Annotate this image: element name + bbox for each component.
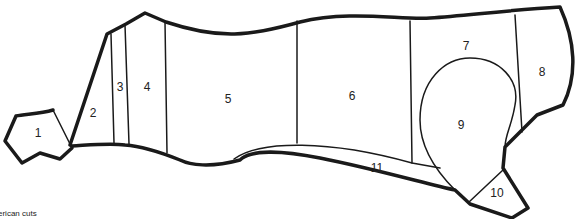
cut-label-4: 4 (144, 80, 151, 94)
divider (53, 110, 72, 148)
cut-label-7: 7 (463, 39, 470, 53)
cut-label-3: 3 (117, 80, 124, 94)
divider (165, 22, 167, 153)
caption: erican cuts (0, 209, 37, 218)
cut-label-8: 8 (539, 65, 546, 79)
divider (125, 25, 129, 144)
cut-label-10: 10 (490, 186, 503, 200)
divider (515, 15, 522, 132)
cut-label-11: 11 (371, 161, 383, 175)
cut-9-outline (420, 58, 516, 190)
cut-label-1: 1 (35, 126, 42, 140)
cut-label-6: 6 (349, 89, 356, 103)
cut-11-outline (234, 145, 440, 168)
cut-label-5: 5 (225, 92, 232, 106)
cut-label-9: 9 (458, 118, 465, 132)
divider (111, 34, 114, 143)
carcass-diagram (0, 0, 575, 219)
cut-label-2: 2 (90, 106, 97, 120)
divider (410, 21, 412, 163)
